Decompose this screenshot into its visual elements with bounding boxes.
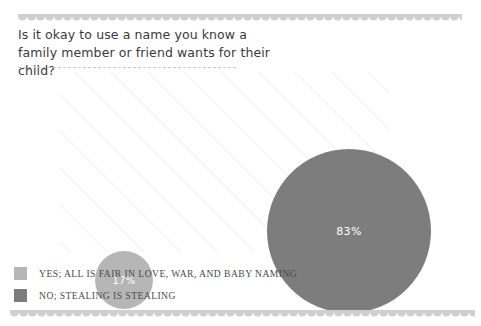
- legend-label-no: NO; STEALING IS STEALING: [39, 290, 176, 301]
- legend-item-no[interactable]: NO; STEALING IS STEALING: [14, 284, 434, 306]
- title-dashed-rule: [18, 67, 236, 68]
- legend-swatch-yes: [14, 267, 27, 280]
- scalloped-divider-top: [18, 14, 462, 24]
- legend: YES; ALL IS FAIR IN LOVE, WAR, AND BABY …: [14, 262, 434, 306]
- legend-swatch-no: [14, 289, 27, 302]
- legend-label-yes: YES; ALL IS FAIR IN LOVE, WAR, AND BABY …: [39, 268, 297, 279]
- legend-item-yes[interactable]: YES; ALL IS FAIR IN LOVE, WAR, AND BABY …: [14, 262, 434, 284]
- scalloped-divider-bottom: [10, 310, 475, 320]
- bubble-no-label: 83%: [336, 225, 361, 238]
- infographic-card: Is it okay to use a name you know a fami…: [0, 0, 481, 326]
- plot-area: 83% 17%: [0, 72, 481, 252]
